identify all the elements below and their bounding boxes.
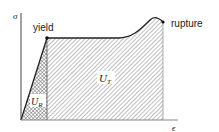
yield-point <box>45 36 49 40</box>
y-axis-label: σ <box>13 11 18 21</box>
rupture-point <box>161 20 164 23</box>
rupture-label: rupture <box>171 18 203 29</box>
toughness-region <box>47 18 163 120</box>
stress-strain-diagram: σ ϵ yield rupture UT UR <box>0 0 219 132</box>
yield-label: yield <box>33 22 54 33</box>
x-axis-label: ϵ <box>172 123 176 132</box>
